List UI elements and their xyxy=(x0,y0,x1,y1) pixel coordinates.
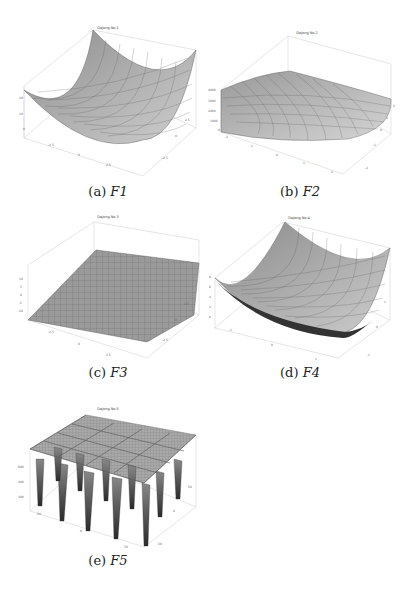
caption-b: (b) F2 xyxy=(280,184,320,199)
x-tick: -50 xyxy=(36,512,41,516)
x-tick: 50 xyxy=(124,545,128,549)
y-tick: -1 xyxy=(373,143,376,147)
y-tick: 2.5 xyxy=(184,302,189,306)
surface-plot-f2 xyxy=(218,34,403,184)
z-tick: -5 xyxy=(19,301,22,305)
plot-title: Dejong No.1 xyxy=(97,26,119,30)
y-tick: 0 xyxy=(173,509,175,513)
surface-plot-f1 xyxy=(18,28,203,178)
y-tick: 50 xyxy=(188,485,192,489)
z-tick: 0 xyxy=(20,293,22,297)
z-tick: -10 xyxy=(18,309,23,313)
x-tick: 0 xyxy=(78,153,80,157)
z-tick: 600 xyxy=(18,465,24,469)
y-tick: -1 xyxy=(367,353,370,357)
z-tick: 0 xyxy=(209,315,211,319)
y-tick: -50 xyxy=(157,542,162,546)
x-tick: -1 xyxy=(229,328,232,332)
z-tick: 200 xyxy=(18,495,24,499)
x-tick: -2 xyxy=(225,135,228,139)
plot-title: Dejong No.2 xyxy=(296,31,318,35)
y-tick: 0 xyxy=(376,325,378,329)
y-tick: -2.5 xyxy=(162,338,168,342)
z-tick: 1000 xyxy=(210,119,218,123)
caption-a: (a) F1 xyxy=(88,184,127,199)
y-tick: 2.5 xyxy=(185,118,190,122)
z-tick: 5 xyxy=(20,285,22,289)
z-tick: 2 xyxy=(209,305,211,309)
y-tick: 2 xyxy=(393,104,395,108)
z-tick: 0 xyxy=(218,128,220,132)
panel-b: Dejong No.2 4000 3000 2000 1000 0 -2 -1 … xyxy=(203,0,406,205)
z-tick: 20 xyxy=(19,96,23,100)
x-tick: -1 xyxy=(250,144,253,148)
panel-d: Dejong No.4 8 6 4 2 0 -1 0 1 1 0 -1 (d) … xyxy=(203,205,406,395)
z-tick: 0 xyxy=(23,127,25,131)
z-tick: 4 xyxy=(209,295,211,299)
y-tick: -2.5 xyxy=(162,156,168,160)
panel-e: Dejong No.5 600 400 200 -50 0 50 50 0 -5… xyxy=(0,395,203,590)
surface-plot-f3 xyxy=(24,220,204,360)
x-tick: 1 xyxy=(315,357,317,361)
y-tick: -2 xyxy=(365,166,368,170)
z-tick: 2000 xyxy=(208,109,216,113)
caption-d: (d) F4 xyxy=(280,365,320,380)
y-tick: 0 xyxy=(175,318,177,322)
y-tick: 0 xyxy=(175,134,177,138)
x-tick: -2.5 xyxy=(48,143,54,147)
x-tick: 2.5 xyxy=(106,163,111,167)
surface-plot-f5 xyxy=(24,411,204,551)
z-tick: 400 xyxy=(18,480,24,484)
x-tick: 0 xyxy=(78,342,80,346)
caption-c: (c) F3 xyxy=(89,365,128,380)
plot-title: Dejong No.3 xyxy=(97,215,119,219)
z-tick: 3000 xyxy=(208,99,216,103)
y-tick: 0 xyxy=(380,128,382,132)
plot-title: Dejong No.5 xyxy=(97,407,119,411)
z-tick: 6 xyxy=(209,285,211,289)
panel-a: Dejong No.1 20 10 0 -2.5 0 2.5 2.5 0 -2.… xyxy=(0,0,203,205)
x-tick: 0 xyxy=(271,343,273,347)
surface-plot-f4 xyxy=(213,220,398,360)
caption-e: (e) F5 xyxy=(88,553,127,568)
y-tick: 1 xyxy=(386,116,388,120)
z-tick: 10 xyxy=(19,277,23,281)
panel-c: Dejong No.3 10 5 0 -5 -10 -2.5 0 2.5 2.5… xyxy=(0,205,203,395)
x-tick: 0 xyxy=(80,529,82,533)
z-tick: 10 xyxy=(19,112,23,116)
x-tick: -2.5 xyxy=(48,330,54,334)
plot-title: Dejong No.4 xyxy=(288,216,310,220)
x-tick: 0 xyxy=(276,153,278,157)
x-tick: 2 xyxy=(331,170,333,174)
z-tick: 8 xyxy=(209,275,211,279)
z-tick: 4000 xyxy=(208,88,216,92)
x-tick: 1 xyxy=(303,161,305,165)
x-tick: 2.5 xyxy=(106,353,111,357)
y-tick: 1 xyxy=(384,300,386,304)
